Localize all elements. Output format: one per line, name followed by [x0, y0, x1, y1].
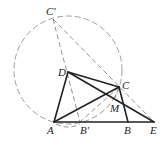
label-e: E [149, 124, 157, 136]
label-c: C [122, 79, 130, 91]
segment-a-d [54, 72, 68, 122]
label-d: D [57, 66, 66, 78]
geometry-diagram: C' D C M A B' B E [0, 0, 167, 152]
circumcircle [14, 16, 122, 124]
angle-arc [56, 124, 80, 127]
label-c-prime: C' [46, 5, 56, 17]
label-a: A [46, 124, 54, 136]
label-m: M [109, 102, 120, 114]
segment-d-c [68, 72, 119, 87]
segment-cprime-e [53, 19, 154, 122]
segment-d-e [68, 72, 154, 122]
label-b-prime: B' [80, 124, 90, 136]
label-b: B [124, 124, 131, 136]
